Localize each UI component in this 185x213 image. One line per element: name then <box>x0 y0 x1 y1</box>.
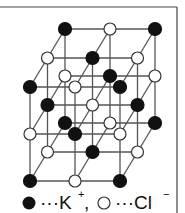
cl-ion <box>59 70 71 82</box>
k-ion <box>86 146 99 159</box>
k-ion <box>59 117 72 130</box>
k-ion <box>24 175 37 188</box>
k-ion <box>69 128 82 141</box>
k-ion <box>59 23 72 36</box>
cl-ion <box>42 146 54 158</box>
cl-ion <box>132 52 144 64</box>
cl-ion <box>114 128 126 140</box>
cl-ion <box>104 117 116 129</box>
legend-separator: , <box>84 192 89 213</box>
k-ion <box>114 81 127 94</box>
k-ion <box>149 117 162 130</box>
k-ion <box>149 23 162 36</box>
cl-ion <box>42 52 54 64</box>
cl-ion <box>87 99 99 111</box>
lattice-diagram: ···K + , ···Cl − <box>0 0 185 213</box>
cl-ion <box>149 70 161 82</box>
cl-ion <box>24 128 36 140</box>
k-ion <box>104 70 117 83</box>
legend-black-ion-icon <box>23 197 36 210</box>
cl-ion <box>69 81 81 93</box>
k-ion <box>24 81 37 94</box>
legend-white-ion-icon <box>98 197 110 209</box>
legend-cl-label: ···Cl <box>115 192 152 213</box>
legend-k-label: ···K <box>40 192 72 213</box>
k-ion <box>131 99 144 112</box>
lattice-ions <box>24 23 162 188</box>
cl-ion <box>132 146 144 158</box>
k-ion <box>86 52 99 65</box>
legend-cl-charge: − <box>163 188 169 200</box>
k-ion <box>41 99 54 112</box>
cl-ion <box>104 23 116 35</box>
crystal-figure: ···K + , ···Cl − <box>0 0 185 213</box>
cl-ion <box>69 175 81 187</box>
k-ion <box>114 175 127 188</box>
legend: ···K + , ···Cl − <box>23 188 170 213</box>
